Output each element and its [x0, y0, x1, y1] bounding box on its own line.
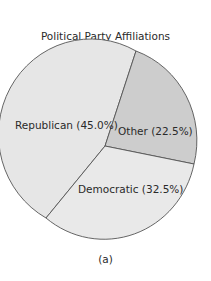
label-democratic: Democratic (32.5%): [78, 183, 183, 195]
label-other: Other (22.5%): [118, 125, 193, 137]
figure-caption: (a): [0, 253, 211, 265]
label-republican: Republican (45.0%): [15, 119, 118, 131]
pie-chart: [0, 0, 211, 281]
